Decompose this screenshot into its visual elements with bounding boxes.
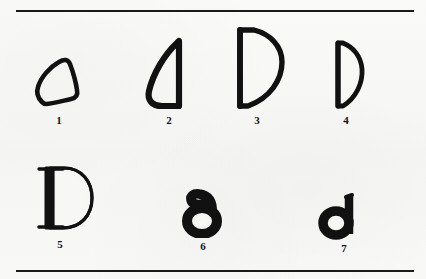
glyph-label-6: 6 — [168, 241, 238, 252]
glyph-grid: 1 2 3 — [0, 12, 426, 270]
glyph-cell-7: 7 — [308, 190, 380, 254]
glyph-cell-2: 2 — [132, 36, 206, 126]
glyph-early-latin-d — [310, 38, 382, 112]
figure-plate: 1 2 3 — [0, 0, 426, 279]
rule-bottom — [16, 270, 414, 272]
glyph-label-1: 1 — [22, 115, 96, 126]
glyph-label-3: 3 — [218, 115, 296, 126]
glyph-cell-6: 6 — [168, 188, 238, 252]
glyph-greek-delta-open — [218, 24, 296, 112]
glyph-cell-1: 1 — [22, 50, 96, 126]
glyph-cell-3: 3 — [218, 24, 296, 126]
glyph-roman-capital-d — [20, 160, 100, 236]
glyph-label-7: 7 — [308, 243, 380, 254]
glyph-label-2: 2 — [132, 115, 206, 126]
glyph-phoenician-daleth — [132, 36, 206, 112]
glyph-cell-4: 4 — [310, 38, 382, 126]
glyph-label-5: 5 — [20, 239, 100, 250]
glyph-proto-sinaitic-triangle — [22, 50, 96, 112]
glyph-uncial-d — [168, 188, 238, 238]
glyph-minuscule-d — [308, 190, 380, 240]
glyph-label-4: 4 — [310, 115, 382, 126]
glyph-cell-5: 5 — [20, 160, 100, 250]
